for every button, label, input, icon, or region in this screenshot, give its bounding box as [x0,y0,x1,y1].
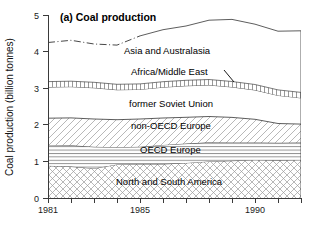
band-label-north-and-south-america: North and South America [116,176,223,187]
chart-svg: 0 1 2 3 4 5 1981 1985 1990 [0,0,319,229]
y-axis-title: Coal production (billion tonnes) [4,38,15,176]
y-tick-label-0: 0 [34,194,39,204]
band-label-non-oecd-europe: non-OECD Europe [131,120,211,131]
band-label-oecd-europe: OECD Europe [140,144,201,155]
y-tick-label-3: 3 [34,84,39,94]
band-label-asia-and-australasia: Asia and Australasia [124,45,211,56]
band-label-former-soviet-union: former Soviet Union [129,98,213,109]
y-tick-label-5: 5 [34,11,39,21]
y-tick-label-4: 4 [34,47,39,57]
band-label-africa-middle-east: Africa/Middle East [131,66,208,77]
x-tick-label-1981: 1981 [38,205,58,215]
x-tick-label-1985: 1985 [130,205,150,215]
x-tick-label-1990: 1990 [245,205,265,215]
y-tick-label-2: 2 [34,120,39,130]
page-title: (a) Coal production [60,11,156,23]
y-tick-label-1: 1 [34,157,39,167]
coal-production-figure: 0 1 2 3 4 5 1981 1985 1990 [0,0,319,229]
